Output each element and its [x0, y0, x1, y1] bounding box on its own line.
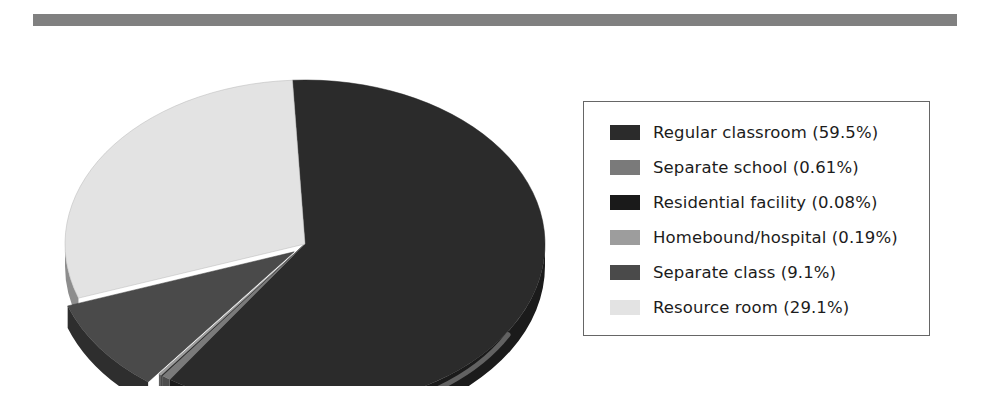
horizontal-rule-icon [33, 14, 957, 26]
legend-label-homebound-hospital: Homebound/hospital (0.19%) [653, 228, 898, 247]
legend-swatch-separate-class [610, 265, 640, 280]
legend-swatch-residential-facility [610, 195, 640, 210]
legend-item[interactable]: Homebound/hospital (0.19%) [610, 220, 929, 255]
legend-swatch-homebound-hospital [610, 230, 640, 245]
legend-swatch-separate-school [610, 160, 640, 175]
legend-label-residential-facility: Residential facility (0.08%) [653, 193, 877, 212]
legend-item[interactable]: Resource room (29.1%) [610, 290, 929, 325]
pie-chart-svg: Regular classroom (59.5%)Separate school… [40, 36, 570, 386]
legend-label-separate-class: Separate class (9.1%) [653, 263, 836, 282]
legend-item[interactable]: Separate class (9.1%) [610, 255, 929, 290]
chart-page: Regular classroom (59.5%)Separate school… [0, 0, 988, 397]
legend-swatch-resource-room [610, 300, 640, 315]
pie-side-residential-facility [161, 375, 162, 386]
legend-label-separate-school: Separate school (0.61%) [653, 158, 859, 177]
legend-item[interactable]: Separate school (0.61%) [610, 150, 929, 185]
pie-chart: Regular classroom (59.5%)Separate school… [40, 36, 570, 386]
legend-swatch-regular-classroom [610, 125, 640, 140]
legend-label-regular-classroom: Regular classroom (59.5%) [653, 123, 878, 142]
legend-item[interactable]: Regular classroom (59.5%) [610, 115, 929, 150]
chart-legend: Regular classroom (59.5%) Separate schoo… [583, 101, 930, 336]
pie-side-homebound-hospital [159, 374, 161, 386]
legend-item[interactable]: Residential facility (0.08%) [610, 185, 929, 220]
legend-label-resource-room: Resource room (29.1%) [653, 298, 849, 317]
pie-slice-tops: Regular classroom (59.5%)Separate school… [65, 80, 545, 386]
